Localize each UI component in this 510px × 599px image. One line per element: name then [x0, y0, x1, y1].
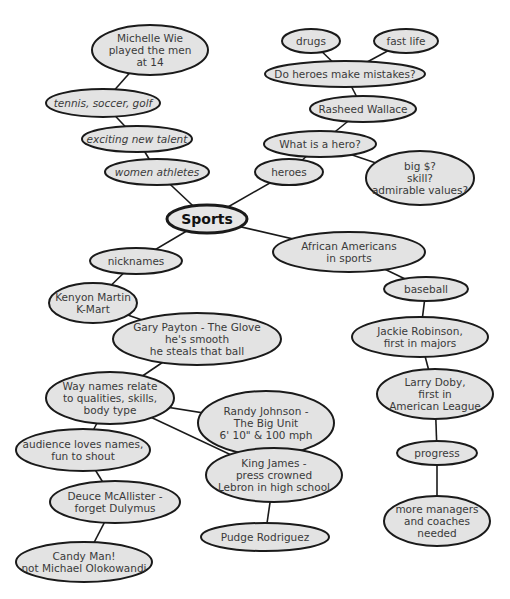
node-label: more managers	[395, 503, 478, 515]
node-pudge: Pudge Rodriguez	[201, 523, 329, 551]
node-king: King James -press crownedLebron in high …	[206, 448, 342, 502]
node-label: African Americans	[301, 240, 396, 252]
node-kenyon: Kenyon MartinK-Mart	[49, 283, 137, 323]
node-label: Michelle Wie	[117, 32, 183, 44]
node-label: Do heroes make mistakes?	[274, 68, 415, 80]
node-audience: audience loves names,fun to shout	[16, 429, 150, 471]
node-label: audience loves names,	[23, 438, 144, 450]
node-label: Sports	[181, 211, 233, 227]
node-exciting: exciting new talent	[82, 126, 192, 152]
node-label: K-Mart	[76, 303, 110, 315]
node-label: first in	[418, 388, 451, 400]
node-label: nicknames	[108, 255, 165, 267]
node-label: tennis, soccer, golf	[54, 97, 155, 109]
node-label: at 14	[136, 56, 164, 68]
node-label: exciting new talent	[87, 133, 189, 145]
node-label: What is a hero?	[279, 138, 361, 150]
node-randy: Randy Johnson -The Big Unit6' 10" & 100 …	[198, 391, 334, 455]
node-label: skill?	[407, 172, 433, 184]
node-bigmoney: big $?skill?admirable values?	[366, 151, 474, 205]
node-deuce: Deuce McAllister -forget Dulymus	[50, 481, 180, 523]
node-candy: Candy Man!not Michael Olokowandi	[16, 542, 152, 582]
central-node-sports: Sports	[167, 205, 247, 233]
node-label: Deuce McAllister -	[67, 490, 162, 502]
node-managers: more managersand coachesneeded	[384, 496, 490, 546]
node-label: needed	[417, 527, 456, 539]
node-drugs: drugs	[282, 29, 340, 53]
nodes-layer: SportsMichelle Wieplayed the menat 14ten…	[16, 25, 493, 582]
node-label: Randy Johnson -	[224, 405, 309, 417]
node-label: drugs	[296, 35, 326, 47]
node-label: Pudge Rodriguez	[221, 531, 310, 543]
node-mistakes: Do heroes make mistakes?	[265, 61, 425, 87]
node-heroes: heroes	[255, 159, 323, 185]
node-women: women athletes	[105, 159, 209, 185]
node-label: forget Dulymus	[74, 502, 155, 514]
node-waynames: Way names relateto qualities, skills,bod…	[46, 372, 174, 424]
node-label: he's smooth	[165, 333, 229, 345]
node-label: he steals that ball	[150, 345, 244, 357]
node-label: press crowned	[236, 469, 312, 481]
node-label: 6' 10" & 100 mph	[220, 429, 313, 441]
node-label: admirable values?	[372, 184, 468, 196]
node-label: and coaches	[404, 515, 470, 527]
node-label: Jackie Robinson,	[376, 325, 462, 337]
node-jackie: Jackie Robinson,first in majors	[352, 317, 488, 357]
node-michelle: Michelle Wieplayed the menat 14	[92, 25, 208, 75]
node-label: big $?	[404, 160, 436, 172]
mind-map-canvas: SportsMichelle Wieplayed the menat 14ten…	[0, 0, 510, 599]
node-label: first in majors	[384, 337, 457, 349]
node-larry: Larry Doby,first inAmerican League	[377, 369, 493, 419]
node-label: Larry Doby,	[404, 376, 465, 388]
node-label: played the men	[109, 44, 192, 56]
node-label: fast life	[386, 35, 425, 47]
node-label: Way names relate	[63, 380, 158, 392]
node-fastlife: fast life	[374, 29, 438, 53]
node-label: King James -	[241, 457, 306, 469]
node-rasheed: Rasheed Wallace	[310, 96, 416, 122]
node-label: fun to shout	[51, 450, 115, 462]
node-progress: progress	[397, 441, 477, 465]
node-whathero: What is a hero?	[264, 131, 376, 157]
node-label: progress	[414, 447, 459, 459]
node-baseball: baseball	[384, 277, 468, 301]
node-label: women athletes	[115, 166, 200, 178]
node-gary: Gary Payton - The Glovehe's smoothhe ste…	[113, 313, 281, 365]
node-label: baseball	[404, 283, 448, 295]
node-label: body type	[84, 404, 137, 416]
node-label: Candy Man!	[53, 550, 116, 562]
node-label: not Michael Olokowandi	[21, 562, 146, 574]
node-label: to qualities, skills,	[63, 392, 157, 404]
node-label: Gary Payton - The Glove	[133, 321, 261, 333]
node-label: American League	[389, 400, 481, 412]
node-african: African Americansin sports	[273, 232, 425, 272]
node-label: heroes	[271, 166, 307, 178]
node-label: The Big Unit	[233, 417, 298, 429]
node-tennis: tennis, soccer, golf	[46, 89, 160, 117]
node-label: Rasheed Wallace	[318, 103, 407, 115]
node-nicknames: nicknames	[90, 248, 182, 274]
node-label: Lebron in high school	[218, 481, 330, 493]
node-label: Kenyon Martin	[55, 291, 131, 303]
node-label: in sports	[326, 252, 371, 264]
